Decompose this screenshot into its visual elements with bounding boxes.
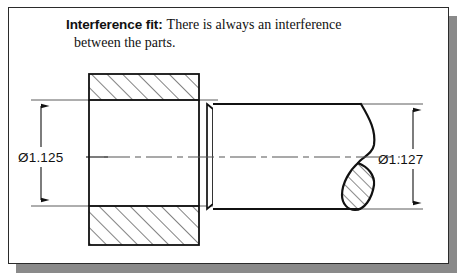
- bushing-cross-section: [89, 74, 199, 245]
- dimension-left-label: Ø1.125: [18, 150, 63, 165]
- dimension-left: Ø1.125: [18, 106, 108, 200]
- figure-root: Interference fit: There is always an int…: [0, 0, 464, 279]
- dimension-right-label: Ø1.127: [378, 152, 423, 167]
- technical-drawing: Ø1.125 Ø1.127: [8, 7, 449, 264]
- dimension-right: Ø1.127: [378, 110, 423, 203]
